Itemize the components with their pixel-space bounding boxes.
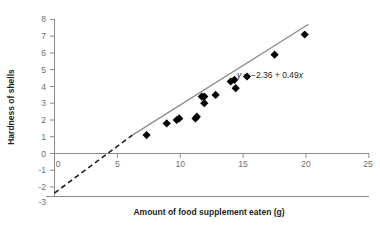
y-axis-title: Hardness of shells [6,69,16,145]
regression-equation: y = −2.36 + 0.49x [236,70,304,80]
y-tick-label-0: 0 [41,149,46,159]
data-point [143,131,151,139]
data-point [163,119,171,127]
y-axis-ticks [50,19,55,187]
scatter-plot: 8 7 6 5 4 3 2 1 0 -1 -2 -3 0 5 10 15 [0,0,380,234]
x-axis-title: Amount of food supplement eaten (g) [133,207,284,217]
y-axis-tick-labels: 8 7 6 5 4 3 2 1 0 -1 -2 -3 [38,14,46,207]
x-axis-tick-labels: 0 5 10 15 20 25 [56,159,373,169]
x-tick-label-25: 25 [363,159,373,169]
y-tick-label-7: 7 [41,31,46,41]
y-tick-label-2: 2 [41,115,46,125]
y-tick-label-3: 3 [41,98,46,108]
y-tick-label-5: 5 [41,65,46,75]
y-tick-label-6: 6 [41,48,46,58]
data-point [232,84,240,92]
equation-x-symbol: x [298,70,304,80]
regression-line-dashed [55,135,133,193]
data-point [271,51,279,59]
data-points [143,30,309,139]
y-tick-label-neg1: -1 [38,165,46,175]
y-tick-label-neg2: -2 [38,182,46,192]
x-tick-label-15: 15 [238,159,248,169]
y-tick-label-1: 1 [41,132,46,142]
data-point [200,99,208,107]
data-point [301,30,309,38]
y-tick-label-neg3: -3 [38,197,46,207]
equation-body: = −2.36 + 0.49 [241,70,299,80]
y-tick-label-8: 8 [41,14,46,24]
x-tick-label-20: 20 [301,159,311,169]
x-tick-label-5: 5 [115,159,120,169]
data-point [212,91,220,99]
chart-figure: 8 7 6 5 4 3 2 1 0 -1 -2 -3 0 5 10 15 [0,0,380,234]
x-tick-label-0: 0 [56,159,61,169]
y-tick-label-4: 4 [41,82,46,92]
x-tick-label-10: 10 [175,159,185,169]
